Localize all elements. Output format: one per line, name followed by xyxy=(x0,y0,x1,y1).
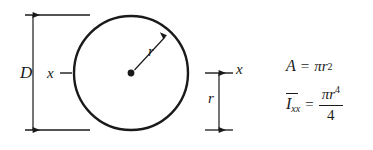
left-axis-label: x xyxy=(47,66,54,81)
radius-dimension-label: r xyxy=(208,91,214,106)
inertia-numerator-exponent: 4 xyxy=(335,84,340,95)
centroid-dot xyxy=(128,70,135,77)
circle-section-properties-figure: D x x r r A = π r 2 Ixx = πr4 4 xyxy=(0,0,373,150)
inertia-denominator: 4 xyxy=(324,107,338,124)
area-symbol: A xyxy=(286,57,296,75)
diameter-label: D xyxy=(20,64,32,81)
right-axis-label: x xyxy=(236,62,243,77)
area-exponent: 2 xyxy=(328,61,333,72)
centroidal-overbar xyxy=(286,93,298,94)
radius-arrow-label: r xyxy=(148,44,154,59)
inertia-equals: = xyxy=(305,96,313,113)
area-equals: = xyxy=(301,58,309,75)
property-formulas: A = π r 2 Ixx = πr4 4 xyxy=(286,47,373,123)
inertia-subscript: xx xyxy=(291,103,300,114)
moment-of-inertia-formula: Ixx = πr4 4 xyxy=(286,85,373,123)
area-formula: A = π r 2 xyxy=(286,47,373,85)
inertia-symbol-group: Ixx xyxy=(286,95,300,114)
inertia-fraction: πr4 4 xyxy=(319,84,343,124)
inertia-numerator: πr4 xyxy=(319,84,343,103)
fraction-bar xyxy=(319,105,343,106)
area-pi: π xyxy=(314,58,322,75)
